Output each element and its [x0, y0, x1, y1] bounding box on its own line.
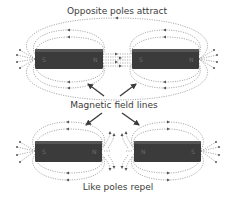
pole-label: N — [141, 148, 146, 155]
magnet-diagram: Opposite poles attract — [0, 0, 230, 206]
pole-label: S — [191, 148, 195, 155]
repel-magnet-left: S N — [35, 141, 102, 162]
attract-magnet-left: S N — [35, 49, 103, 69]
repel-magnet-right: N S — [134, 141, 201, 162]
pole-label: S — [42, 148, 46, 155]
pole-label: N — [93, 56, 98, 63]
pole-label: S — [42, 56, 46, 63]
pole-label: S — [139, 56, 143, 63]
caption-like-poles-repel: Like poles repel — [83, 182, 153, 192]
title-opposite-poles-attract: Opposite poles attract — [67, 6, 168, 16]
label-magnetic-field-lines: Magnetic field lines — [70, 100, 158, 110]
pole-label: N — [189, 56, 194, 63]
attract-magnet-right: S N — [132, 49, 199, 69]
pole-label: N — [92, 148, 97, 155]
